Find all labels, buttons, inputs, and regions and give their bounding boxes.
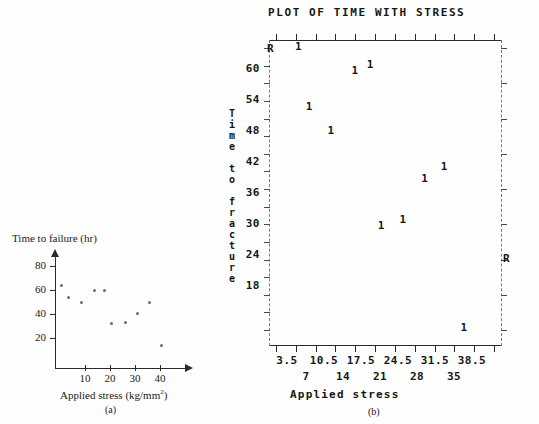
panel-b-left-tick <box>264 101 270 102</box>
panel-b-left-tick <box>264 242 270 243</box>
panel-b-y-tick-label: 60 <box>234 62 260 75</box>
panel-a-data-point <box>148 301 151 304</box>
panel-a-y-tick <box>50 290 56 291</box>
panel-a-y-axis-line <box>55 256 56 368</box>
panel-b-x-tick-label-upper: 38.5 <box>450 354 494 367</box>
panel-a-y-tick-label: 40 <box>24 307 46 319</box>
panel-a-x-tick-label: 20 <box>99 372 121 384</box>
panel-b-right-tick <box>501 154 507 155</box>
panel-b-y-axis-label-char: f <box>226 196 238 207</box>
panel-b-corner-marker-left: R <box>267 43 274 54</box>
panel-b-y-axis-label-char: e <box>226 141 238 152</box>
panel-a-caption: (a) <box>105 404 116 415</box>
panel-b-left-axis-line <box>269 40 270 346</box>
panel-b-left-tick <box>264 154 270 155</box>
panel-b-data-point: 1 <box>367 59 374 70</box>
panel-a-x-axis-arrow <box>185 364 193 372</box>
panel-b-y-axis-label-char: T <box>226 108 238 119</box>
panel-b-left-tick <box>264 312 270 313</box>
panel-b-left-tick <box>264 295 270 296</box>
panel-b-bottom-axis-line <box>269 345 502 346</box>
panel-a-x-tick <box>110 365 111 371</box>
panel-b-data-point: 1 <box>421 173 428 184</box>
panel-b-y-axis-label-char: u <box>226 251 238 262</box>
panel-b-bottom-tick <box>355 346 356 352</box>
panel-b-left-tick <box>264 277 270 278</box>
panel-b-corner-marker-right: R <box>503 253 510 264</box>
panel-a-data-point <box>136 312 139 315</box>
panel-b-top-tick <box>335 34 336 40</box>
panel-b-top-tick <box>395 34 396 40</box>
panel-b-y-axis-label: Time to fracture <box>226 108 238 284</box>
panel-a-chart: Time to failure (hr) 80 60 40 20 10 20 3… <box>0 0 250 424</box>
panel-b-x-tick-label-lower: 35 <box>432 370 476 383</box>
panel-b-top-tick <box>276 34 277 40</box>
panel-a-x-tick <box>85 365 86 371</box>
panel-b-right-tick <box>501 83 507 84</box>
panel-b-bottom-tick <box>415 346 416 352</box>
panel-b-data-point: 1 <box>441 161 448 172</box>
panel-a-y-tick-label: 20 <box>24 331 46 343</box>
panel-b-data-point: 1 <box>378 220 385 231</box>
panel-b-top-tick <box>494 34 495 40</box>
panel-b-top-tick <box>474 34 475 40</box>
panel-b-right-tick <box>501 330 507 331</box>
panel-a-data-point <box>80 301 83 304</box>
panel-a-x-tick <box>160 365 161 371</box>
panel-a-y-tick-label: 60 <box>24 283 46 295</box>
panel-b-bottom-tick <box>375 346 376 352</box>
panel-b-top-tick <box>355 34 356 40</box>
panel-b-y-axis-label-char: i <box>226 119 238 130</box>
panel-b-y-axis-label-char: m <box>226 130 238 141</box>
panel-b-bottom-tick <box>316 346 317 352</box>
panel-a-x-axis-label-tail: ) <box>164 389 168 401</box>
panel-a-x-tick <box>135 365 136 371</box>
panel-b-right-tick <box>501 295 507 296</box>
panel-b-left-tick <box>264 66 270 67</box>
panel-b-left-tick <box>264 189 270 190</box>
panel-b-data-point: 1 <box>328 125 335 136</box>
panel-b-right-tick <box>501 224 507 225</box>
panel-b-left-tick <box>264 171 270 172</box>
panel-a-data-point <box>110 322 113 325</box>
panel-b-title: PLOT OF TIME WITH STRESS <box>268 6 465 19</box>
panel-b-y-axis-label-char: o <box>226 174 238 185</box>
panel-b-bottom-tick <box>395 346 396 352</box>
panel-a-data-point <box>67 296 70 299</box>
panel-b-caption: (b) <box>368 406 380 417</box>
panel-b-right-tick <box>501 48 507 49</box>
panel-b-left-tick <box>264 119 270 120</box>
panel-b-y-tick-label: 54 <box>234 93 260 106</box>
panel-b-chart: PLOT OF TIME WITH STRESS 605448423630241… <box>220 0 539 424</box>
panel-b-left-tick <box>264 207 270 208</box>
panel-b-data-point: 1 <box>399 214 406 225</box>
panel-a-x-tick-label: 30 <box>124 372 146 384</box>
panel-a-data-point <box>103 289 106 292</box>
panel-a-data-point <box>124 321 127 324</box>
panel-b-top-tick <box>316 34 317 40</box>
panel-b-data-point: 1 <box>306 101 313 112</box>
panel-b-y-axis-label-char: a <box>226 218 238 229</box>
panel-b-y-axis-label-char: t <box>226 163 238 174</box>
panel-b-top-tick <box>375 34 376 40</box>
panel-b-bottom-tick <box>435 346 436 352</box>
panel-a-x-axis-label: Applied stress (kg/mm2) <box>60 388 167 401</box>
panel-b-bottom-tick <box>454 346 455 352</box>
panel-b-y-axis-label-char: t <box>226 240 238 251</box>
panel-b-left-tick <box>264 136 270 137</box>
panel-a-y-axis-label: Time to failure (hr) <box>12 232 97 244</box>
panel-a-x-axis-label-base: Applied stress (kg/mm <box>60 389 160 401</box>
panel-b-left-tick <box>264 224 270 225</box>
panel-b-data-point: 1 <box>352 65 359 76</box>
panel-b-data-point: 1 <box>295 41 302 52</box>
panel-b-right-axis-line <box>501 40 502 346</box>
panel-a-data-point <box>60 284 63 287</box>
panel-b-top-axis-line <box>269 40 502 41</box>
panel-b-left-tick <box>264 260 270 261</box>
panel-b-right-tick <box>501 119 507 120</box>
panel-b-bottom-tick <box>296 346 297 352</box>
panel-b-bottom-tick <box>474 346 475 352</box>
panel-a-data-point <box>160 344 163 347</box>
panel-b-top-tick <box>454 34 455 40</box>
panel-b-right-tick <box>501 189 507 190</box>
